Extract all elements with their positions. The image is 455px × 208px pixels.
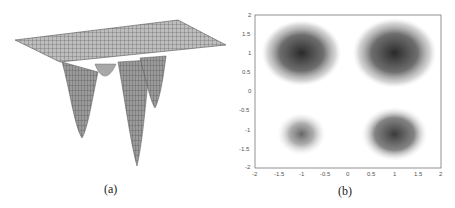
ytick: -1.5 [239,146,249,152]
xtick: -0.5 [320,171,330,177]
blob-lower-left [278,113,326,155]
xtick: 0.5 [367,171,375,177]
ytick: 1.5 [242,31,250,37]
xtick: -1.5 [274,171,284,177]
panel-b-density-plot: 2 1.5 1 0.5 0 -0.5 -1 -1.5 -2 -2 -1.5 -1… [230,0,455,208]
ytick: 1 [248,50,251,56]
blob-upper-left [262,20,342,86]
xtick: 0 [346,171,349,177]
ytick: 0 [248,88,251,94]
ytick: 2 [248,12,251,18]
panel-a-surface-plot: (a) [0,0,230,208]
surface-mesh [0,0,230,208]
blob-upper-right [353,18,437,88]
caption-b: (b) [338,184,352,199]
xtick: 1 [393,171,396,177]
ytick: -2 [245,164,250,170]
ytick: -1 [245,127,250,133]
xtick: -2 [252,171,257,177]
blob-lower-right [362,107,428,161]
xtick: 1.5 [414,171,422,177]
xtick: -1 [299,171,304,177]
xtick: 2 [439,171,442,177]
ytick: -0.5 [239,107,249,113]
caption-a: (a) [104,182,117,197]
ytick: 0.5 [242,69,250,75]
